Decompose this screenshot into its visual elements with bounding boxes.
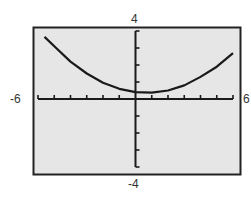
screen-frame: [34, 28, 241, 175]
graph-screen: [0, 0, 251, 204]
